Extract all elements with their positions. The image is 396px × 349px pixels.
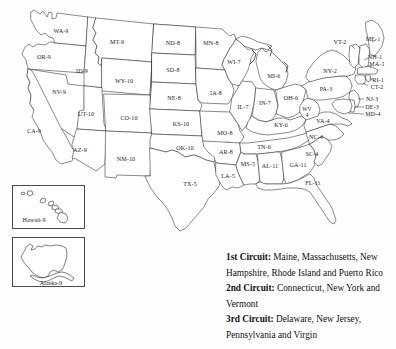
- us-circuits-map: WA-9OR-9ID-9MT-9NV-9WY-10UT-10CA-9AZ-9CO…: [0, 0, 396, 250]
- legend-circuit-name-2: 2nd Circuit:: [226, 283, 275, 293]
- inset-label-alaska: Alaska-9: [40, 279, 62, 286]
- map-page: WA-9OR-9ID-9MT-9NV-9WY-10UT-10CA-9AZ-9CO…: [0, 0, 396, 349]
- circuit-legend: 1st Circuit: Maine, Massachusetts, New H…: [226, 250, 396, 344]
- inset-label-hawaii: Hawaii-9: [22, 216, 45, 223]
- legend-entry-2: 2nd Circuit: Connecticut, New York and V…: [226, 281, 396, 312]
- legend-entry-1: 1st Circuit: Maine, Massachusetts, New H…: [226, 250, 396, 281]
- legend-entry-3: 3rd Circuit: Delaware, New Jersey, Penns…: [226, 312, 396, 343]
- legend-circuit-name-1: 1st Circuit:: [226, 252, 271, 262]
- legend-circuit-name-3: 3rd Circuit:: [226, 314, 274, 324]
